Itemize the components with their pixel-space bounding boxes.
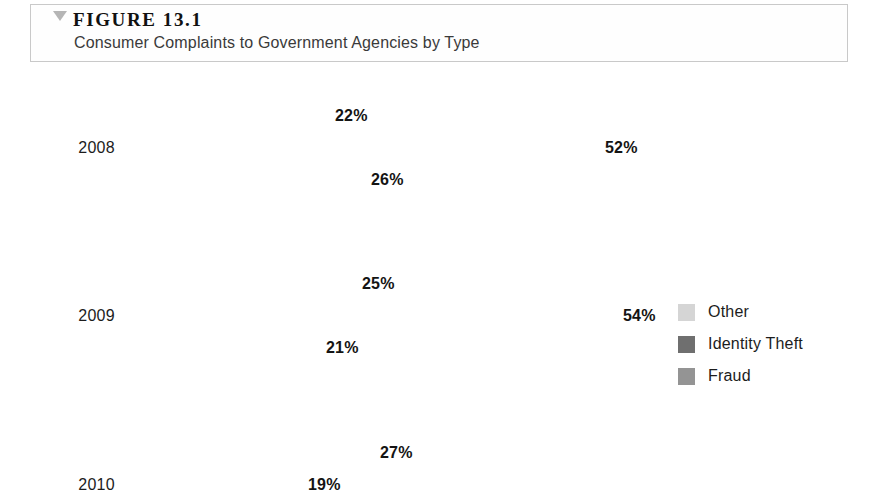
bar-value-2008-other: 22% [335, 107, 368, 125]
group-label-2010: 2010 [55, 476, 115, 494]
bar-2009-other [127, 268, 352, 300]
group-label-2008: 2008 [55, 139, 115, 157]
legend-label-identity-theft: Identity Theft [708, 335, 803, 353]
bar-group-2008: 200822%52%26% [0, 100, 877, 196]
legend-swatch-identity-theft [678, 336, 695, 353]
bar-value-2008-fraud: 26% [371, 171, 404, 189]
legend-item-fraud: Fraud [678, 360, 868, 392]
bar-2008-fraud [127, 164, 361, 196]
bar-value-2010-identity-theft: 19% [308, 476, 341, 494]
bar-2009-fraud [127, 332, 316, 364]
legend-label-fraud: Fraud [708, 367, 751, 385]
triangle-down-icon [53, 11, 67, 21]
legend-item-identity-theft: Identity Theft [678, 328, 868, 360]
bar-value-2008-identity-theft: 52% [605, 139, 638, 157]
bar-group-2010: 201027%19% [0, 437, 877, 501]
bar-2008-identity-theft [127, 132, 595, 164]
bar-value-2010-other: 27% [380, 444, 413, 462]
figure-header-box: FIGURE 13.1 Consumer Complaints to Gover… [30, 4, 848, 62]
bar-value-2009-identity-theft: 54% [623, 307, 656, 325]
bar-2009-identity-theft [127, 300, 613, 332]
legend-swatch-other [678, 304, 695, 321]
chart-legend: OtherIdentity TheftFraud [678, 296, 868, 392]
bar-2008-other [127, 100, 325, 132]
figure-number: FIGURE 13.1 [73, 9, 203, 31]
group-label-2009: 2009 [55, 307, 115, 325]
figure-caption: Consumer Complaints to Government Agenci… [74, 34, 480, 52]
legend-item-other: Other [678, 296, 868, 328]
legend-swatch-fraud [678, 368, 695, 385]
chart-plot-area: 200822%52%26%200925%54%21%201027%19% [0, 62, 877, 501]
bar-2010-identity-theft [127, 469, 298, 501]
legend-label-other: Other [708, 303, 749, 321]
bar-value-2009-fraud: 21% [326, 339, 359, 357]
bar-2010-other [127, 437, 370, 469]
bar-value-2009-other: 25% [362, 275, 395, 293]
